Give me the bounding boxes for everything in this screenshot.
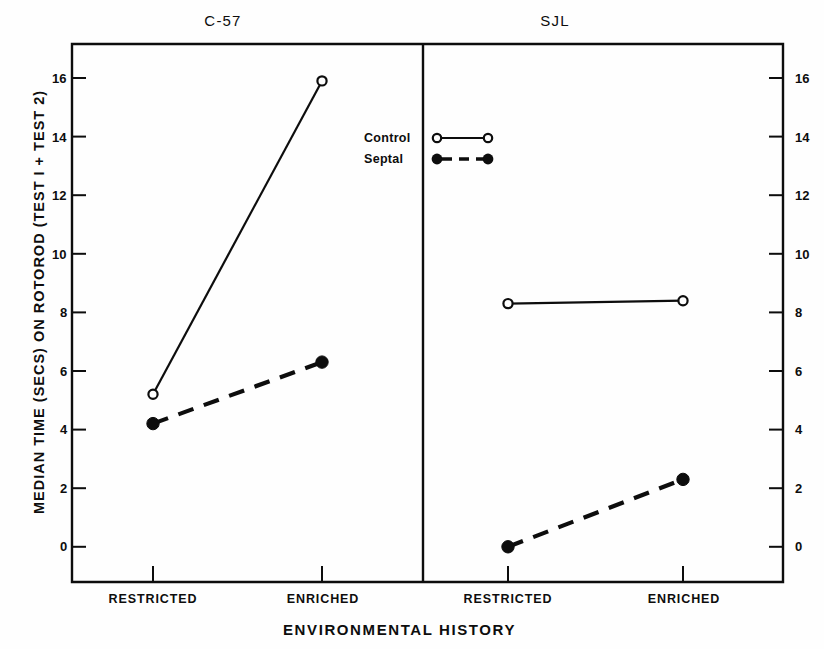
figure-container: MEDIAN TIME (SECS) ON ROTOROD (TEST I + … — [0, 0, 824, 649]
legend-marker-septal-left — [432, 154, 443, 165]
y-ticks-left — [72, 78, 86, 547]
series-sjl-control — [503, 296, 687, 308]
data-point-c57-septal-enriched — [316, 356, 328, 368]
data-point-sjl-control-restricted — [503, 299, 512, 308]
data-point-c57-septal-restricted — [147, 417, 159, 429]
legend-marker-control-left — [433, 134, 441, 142]
x-ticks — [153, 566, 683, 582]
legend-marker-control-right — [484, 134, 492, 142]
data-point-sjl-septal-restricted — [502, 541, 514, 553]
series-c57-septal — [147, 356, 328, 430]
series-c57-control — [148, 76, 326, 399]
y-ticks-right — [769, 78, 783, 547]
data-point-c57-control-enriched — [317, 76, 326, 85]
data-point-sjl-control-enriched — [678, 296, 687, 305]
data-point-c57-control-restricted — [148, 390, 157, 399]
plot-frame — [72, 44, 783, 582]
legend-glyph-control — [433, 134, 492, 142]
legend-marker-septal-right — [483, 154, 494, 165]
data-point-sjl-septal-enriched — [677, 473, 689, 485]
legend-glyph-septal — [432, 154, 494, 165]
plot-canvas — [0, 0, 824, 649]
series-sjl-septal — [502, 473, 689, 553]
